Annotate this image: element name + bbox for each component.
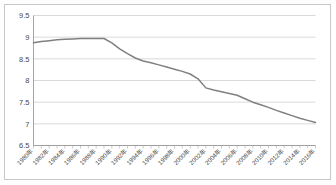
x-axis-tick-label: 1998年: [156, 147, 176, 167]
x-axis-tick-label: 2014年: [282, 147, 302, 167]
x-axis-tick-label: 2010年: [250, 147, 270, 167]
y-axis-tick-label: 7.5: [19, 98, 29, 107]
x-axis-tick-label: 2002年: [188, 147, 208, 167]
x-axis-tick-label: 2012年: [266, 147, 286, 167]
x-axis-tick-label: 1994年: [125, 147, 145, 167]
x-axis-tick-label: 2000年: [172, 147, 192, 167]
y-axis-tick-label: 9.5: [19, 11, 29, 20]
x-axis-tick-label: 2008年: [235, 147, 255, 167]
x-axis-tick-label: 1982年: [31, 147, 51, 167]
x-axis-tick-label: 1992年: [109, 147, 129, 167]
x-axis-tick-label: 2016年: [297, 147, 317, 167]
y-axis-tick-label: 9: [25, 33, 29, 42]
x-axis-tick-label: 1984年: [47, 147, 67, 167]
x-axis-tick-label: 2004年: [203, 147, 223, 167]
y-axis-tick-label: 8.5: [19, 55, 29, 64]
chart-figure: 6.577.588.599.51980年1982年1984年1986年1988年…: [0, 0, 336, 185]
x-axis-tick-label: 1990年: [94, 147, 114, 167]
x-axis-tick-label: 1996年: [141, 147, 161, 167]
y-axis-tick-label: 8: [25, 76, 29, 85]
chart-plot-wrapper: 6.577.588.599.51980年1982年1984年1986年1988年…: [0, 0, 336, 185]
y-axis-tick-label: 7: [25, 120, 29, 129]
x-axis-tick-label: 1988年: [78, 147, 98, 167]
x-axis-tick-label: 1986年: [62, 147, 82, 167]
x-axis-tick-label: 2006年: [219, 147, 239, 167]
line-chart: 6.577.588.599.51980年1982年1984年1986年1988年…: [0, 0, 336, 185]
